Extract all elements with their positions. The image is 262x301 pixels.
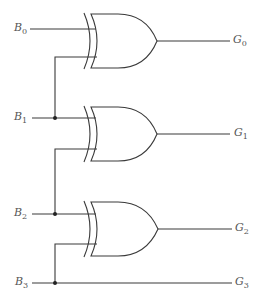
wire-b3-to-gate2 bbox=[55, 244, 97, 283]
output-label-g2: G2 bbox=[235, 222, 249, 236]
output-label-g0: G0 bbox=[233, 34, 247, 48]
junction-dot-b2 bbox=[53, 212, 57, 216]
input-label-b3: B3 bbox=[15, 276, 28, 290]
circuit-diagram bbox=[0, 0, 262, 301]
output-label-g1: G1 bbox=[234, 127, 248, 141]
xor-gate-2 bbox=[84, 201, 158, 257]
input-label-b2: B2 bbox=[14, 207, 27, 221]
wire-b2-to-gate1 bbox=[55, 149, 97, 214]
junction-dot-b1 bbox=[53, 116, 57, 120]
junction-dot-b3 bbox=[53, 281, 57, 285]
xor-gate-1 bbox=[84, 106, 157, 162]
output-label-g3: G3 bbox=[235, 276, 249, 290]
xor-gate-0 bbox=[84, 13, 157, 69]
input-label-b1: B1 bbox=[14, 111, 27, 125]
wire-b1-to-gate0 bbox=[55, 57, 97, 118]
input-label-b0: B0 bbox=[14, 22, 27, 36]
